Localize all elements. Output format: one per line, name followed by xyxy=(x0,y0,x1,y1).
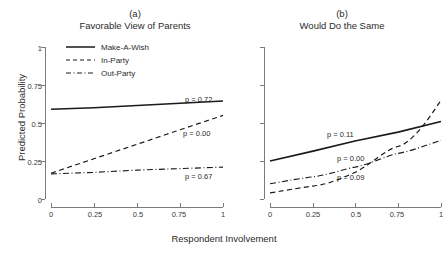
panel-a-line-in-party xyxy=(51,115,223,173)
panel-a-line-make-a-wish xyxy=(51,101,223,109)
plot-canvas xyxy=(0,0,448,259)
panel-b-line-out-party xyxy=(270,141,441,184)
panel-b-line-make-a-wish xyxy=(270,122,441,162)
panel-a-line-out-party xyxy=(51,167,223,174)
figure-root: Predicted Probability Respondent Involve… xyxy=(0,0,448,259)
